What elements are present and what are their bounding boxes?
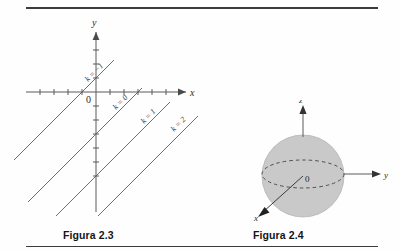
z-axis-label: z: [298, 100, 303, 105]
x-axis-arrowhead: [258, 207, 270, 217]
figure-2-4-plot: z y x 0: [210, 100, 398, 222]
y-axis-label: y: [91, 17, 97, 28]
line-family: [14, 60, 198, 216]
y-axis-label: y: [383, 170, 388, 180]
origin-label: 0: [305, 174, 310, 184]
origin-label: 0: [86, 94, 91, 105]
line-k-minus-1: [14, 60, 114, 160]
figure-2-4: z y x 0: [210, 100, 398, 222]
y-axis-arrowhead: [93, 32, 100, 40]
top-divider-rule: [26, 7, 378, 9]
line-label-k-1: k = 1: [139, 107, 157, 125]
figure-page: y x 0 k = −1 k = 0 k = 1 k = 2: [0, 0, 401, 251]
line-label-k-0: k = 0: [111, 93, 129, 111]
x-axis-label: x: [253, 213, 258, 222]
x-axis-arrowhead: [178, 89, 186, 96]
figure-2-4-caption: Figura 2.4: [253, 229, 304, 241]
z-axis-arrowhead: [299, 105, 306, 114]
y-axis-arrowhead: [372, 170, 381, 177]
figure-2-3-plot: y x 0 k = −1 k = 0 k = 1 k = 2: [8, 12, 208, 220]
line-label-k-2: k = 2: [169, 115, 187, 133]
figure-2-3-caption: Figura 2.3: [63, 229, 114, 241]
line-k-0: [28, 88, 142, 202]
x-axis: [26, 89, 186, 95]
bottom-divider-rule: [26, 246, 378, 247]
figure-2-3: y x 0 k = −1 k = 0 k = 1 k = 2: [8, 12, 208, 220]
line-k-1: [56, 102, 170, 216]
line-k-2: [98, 116, 198, 216]
y-axis: [93, 32, 99, 212]
x-axis-label: x: [189, 87, 195, 98]
